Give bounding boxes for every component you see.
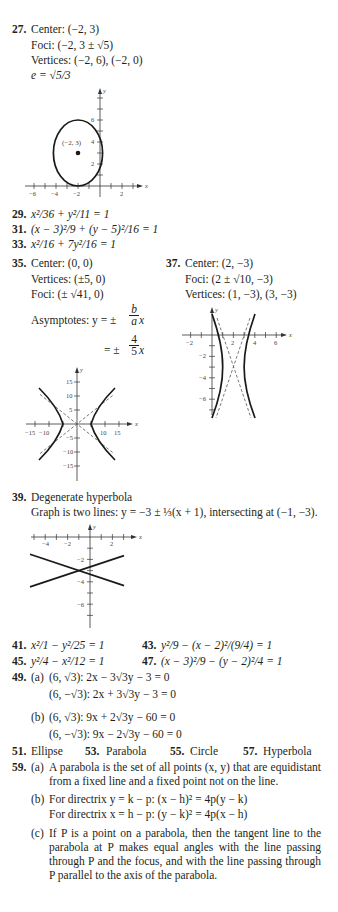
a35-asymptotes-eq2: = ±	[104, 343, 120, 357]
x-tick: −2	[186, 339, 193, 346]
a37-foci: Foci: (2 ± √10, −3)	[185, 272, 273, 286]
x-tick: −4	[42, 540, 50, 547]
x-tick: 4	[253, 339, 257, 346]
frac-numerator: 4	[129, 334, 139, 345]
a59-part-c-label: (c)	[31, 826, 44, 840]
answer-number-29: 29.	[12, 207, 26, 221]
a33-equation: x²/16 + 7y²/16 = 1	[31, 237, 116, 251]
hyperbola-35-graph: −15 −10 10 15 15 10 5 −5 −10 −15 x y	[22, 365, 147, 485]
y-axis-label: y	[102, 87, 106, 94]
x-tick: −6	[29, 190, 37, 197]
a37-vertices: Vertices: (1, −3), (3, −3)	[185, 287, 297, 301]
frac-b-over-a: b a	[129, 304, 139, 327]
x-tick: −10	[39, 429, 49, 436]
frac-denominator: 5	[129, 345, 139, 357]
a35-center: Center: (0, 0)	[31, 256, 93, 270]
answer-number-59: 59.	[12, 760, 26, 774]
a49-part-b-label: (b)	[31, 710, 44, 724]
hyperbola-37-graph: −2 2 4 6 −2 −4 −6 x y	[180, 305, 300, 420]
a49-b-line2: (6, −√3): 9x − 2√3y − 60 = 0	[49, 727, 182, 741]
answer-number-57: 57.	[243, 744, 257, 758]
y-tick: 5	[69, 406, 72, 413]
a35-asymptotes-label: Asymptotes: y = ±	[31, 313, 116, 327]
answer-number-27: 27.	[12, 22, 26, 36]
center-label: (−2, 3)	[62, 139, 82, 147]
a27-eccentricity: e = √5/3	[31, 68, 71, 82]
x-tick: 15	[114, 429, 121, 436]
a51-answer: Ellipse	[31, 744, 63, 758]
a27-vertices: Vertices: (−2, 6), (−2, 0)	[31, 53, 143, 67]
answer-number-47: 47.	[142, 654, 156, 668]
answer-number-49: 49.	[12, 670, 26, 684]
a27-foci: Foci: (−2, 3 ± √5)	[31, 38, 113, 52]
a59-b-line2: For directrix x = h − p: (y − k)² = 4p(x…	[49, 807, 247, 821]
answer-number-43: 43.	[142, 638, 156, 652]
x-var: x	[139, 313, 144, 327]
x-tick: −4	[51, 190, 59, 197]
y-tick: 10	[66, 392, 73, 399]
x-axis-label: x	[138, 533, 142, 540]
a59-part-a-label: (a)	[31, 760, 44, 774]
answer-number-31: 31.	[12, 222, 26, 236]
a59-part-b-label: (b)	[31, 792, 44, 806]
answer-number-41: 41.	[12, 638, 26, 652]
a45-equation: y²/4 − x²/12 = 1	[31, 654, 105, 668]
a39-title: Degenerate hyperbola	[31, 490, 132, 504]
x-tick: 2	[120, 190, 123, 197]
x-tick: 2	[110, 540, 113, 547]
y-tick: −2	[77, 556, 84, 563]
x-tick: −15	[25, 429, 35, 436]
x-tick: −2	[64, 540, 71, 547]
a41-equation: x²/1 − y²/25 = 1	[31, 638, 105, 652]
y-tick: −4	[77, 578, 85, 585]
a53-answer: Parabola	[106, 744, 146, 758]
answer-number-35: 35.	[12, 256, 26, 270]
a27-center: Center: (−2, 3)	[31, 22, 99, 36]
y-axis-label: y	[92, 523, 96, 530]
a39-description: Graph is two lines: y = −3 ± ⅓(x + 1), i…	[31, 505, 318, 519]
answer-number-51: 51.	[12, 744, 26, 758]
y-axis-label: y	[79, 366, 83, 373]
a35-foci: Foci: (± √41, 0)	[31, 287, 104, 301]
answer-number-33: 33.	[12, 237, 26, 251]
y-tick: −6	[199, 395, 207, 402]
y-tick: 2	[91, 160, 94, 167]
answer-number-45: 45.	[12, 654, 26, 668]
x-tick: 10	[100, 429, 107, 436]
a29-equation: x²/36 + y²/11 = 1	[31, 207, 109, 221]
a55-answer: Circle	[190, 744, 218, 758]
a47-equation: (x − 3)²/9 − (y − 2)²/4 = 1	[161, 654, 283, 668]
x-tick: −2	[73, 190, 80, 197]
frac-numerator: b	[129, 304, 139, 315]
y-tick: −6	[77, 601, 85, 608]
a49-b-line1: (6, √3): 9x + 2√3y − 60 = 0	[49, 710, 175, 724]
a59-b-line1: For directrix y = k − p: (x − h)² = 4p(y…	[49, 792, 247, 806]
answer-number-37: 37.	[166, 256, 180, 270]
x-var: x	[139, 343, 144, 357]
lines-39-graph: −4 −2 2 −2 −4 −6 x y	[25, 522, 150, 630]
a43-equation: y²/9 − (x − 2)²/(9/4) = 1	[161, 638, 272, 652]
answer-number-53: 53.	[85, 744, 99, 758]
y-tick: 6	[91, 116, 95, 123]
x-axis-label: x	[288, 331, 292, 338]
y-tick: −5	[66, 434, 73, 441]
y-tick: −4	[199, 374, 207, 381]
x-tick: 2	[231, 339, 234, 346]
a49-a-line1: (6, √3): 2x − 3√3y − 3 = 0	[49, 670, 170, 684]
y-tick: −15	[63, 462, 73, 469]
a37-center: Center: (2, −3)	[185, 256, 253, 270]
a59-c-text: If P is a point on a parabola, then the …	[49, 826, 321, 882]
y-tick: −2	[199, 352, 206, 359]
a35-vertices: Vertices: (±5, 0)	[31, 272, 105, 286]
frac-4-over-5: 4 5	[129, 334, 139, 357]
y-tick: −10	[63, 448, 73, 455]
a31-equation: (x − 3)²/9 + (y − 5)²/16 = 1	[31, 222, 158, 236]
y-tick: 4	[91, 138, 95, 145]
frac-denominator: a	[129, 315, 139, 327]
y-axis-label: y	[214, 306, 218, 313]
answer-number-55: 55.	[170, 744, 184, 758]
a49-part-a-label: (a)	[31, 670, 44, 684]
a59-a-text: A parabola is the set of all points (x, …	[49, 760, 321, 788]
a49-a-line2: (6, −√3): 2x + 3√3y − 3 = 0	[49, 687, 176, 701]
a57-answer: Hyperbola	[263, 744, 312, 758]
